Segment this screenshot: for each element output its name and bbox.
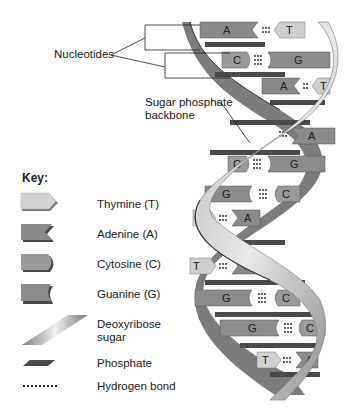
svg-text:G: G: [248, 322, 257, 334]
base-pair-3: A T: [262, 78, 330, 94]
key-label-adenine: Adenine (A): [97, 228, 158, 241]
deoxyribose-sugar-icon: [20, 313, 92, 347]
base-pair-10: G C: [220, 320, 325, 336]
base-pair-2: C G: [222, 52, 330, 68]
svg-text:A: A: [223, 24, 231, 36]
base-pair-1: A T: [200, 22, 305, 38]
backbone-label-line2: backbone: [145, 109, 195, 122]
svg-text:C: C: [282, 292, 290, 304]
svg-text:G: G: [294, 54, 303, 66]
base-pair-6: G C: [205, 186, 300, 202]
key-label-guanine: Guanine (G): [97, 288, 160, 301]
svg-text:T: T: [193, 260, 200, 272]
svg-text:A: A: [244, 212, 252, 224]
key-label-thymine: Thymine (T): [97, 198, 159, 211]
key-label-deoxyribose-line2: sugar: [97, 331, 126, 344]
adenine-icon: [20, 222, 62, 244]
svg-text:C: C: [306, 322, 314, 334]
backbone-label-line1: Sugar phosphate: [145, 96, 233, 109]
guanine-icon: [20, 282, 62, 306]
key-label-cytosine: Cytosine (C): [97, 258, 161, 271]
svg-text:A: A: [308, 130, 316, 142]
svg-text:G: G: [290, 158, 299, 170]
svg-text:T: T: [286, 24, 293, 36]
svg-text:C: C: [282, 188, 290, 200]
svg-text:G: G: [222, 292, 231, 304]
thymine-icon: [20, 192, 62, 214]
svg-text:A: A: [280, 80, 288, 92]
phosphate-icon: [22, 358, 58, 368]
nucleotides-label: Nucleotides: [54, 48, 114, 61]
svg-text:C: C: [233, 54, 241, 66]
cytosine-icon: [20, 252, 62, 274]
base-pair-9: G C: [195, 290, 300, 306]
key-label-phosphate: Phosphate: [97, 357, 152, 370]
hydrogen-bond-icon: [23, 385, 57, 387]
key-label-hydrogen-bond: Hydrogen bond: [97, 380, 176, 393]
svg-text:T: T: [262, 354, 269, 366]
key-title: Key:: [22, 172, 48, 185]
svg-text:G: G: [222, 188, 231, 200]
key-label-deoxyribose-line1: Deoxyribose: [97, 318, 161, 331]
